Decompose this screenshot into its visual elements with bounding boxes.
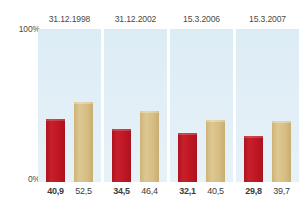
bar-red-4 xyxy=(244,136,263,182)
plot-area-3 xyxy=(170,29,233,182)
bar-pair-2 xyxy=(104,29,167,182)
value-group-1: 40,9 52,5 xyxy=(38,184,101,204)
bar-tan-4 xyxy=(272,121,291,182)
value-red-1: 40,9 xyxy=(46,184,65,198)
bar-red-1 xyxy=(46,119,65,182)
value-tan-1: 52,5 xyxy=(74,184,93,198)
bar-highlight xyxy=(178,133,197,135)
panel-group-1: 31.12.1998 xyxy=(38,10,101,182)
bar-highlight xyxy=(112,129,131,131)
bar-red-3 xyxy=(178,133,197,182)
panel-group-2: 31.12.2002 xyxy=(104,10,167,182)
panel-header-3: 15.3.2006 xyxy=(170,10,233,29)
axis-tick-100: 100% xyxy=(6,24,40,34)
bar-highlight xyxy=(74,102,93,104)
bar-highlight xyxy=(244,136,263,138)
panel-header-4: 15.3.2007 xyxy=(236,10,299,29)
bar-pair-3 xyxy=(170,29,233,182)
value-red-2: 34,5 xyxy=(112,184,131,198)
bar-highlight xyxy=(206,120,225,122)
panel-header-1: 31.12.1998 xyxy=(38,10,101,29)
value-tan-2: 46,4 xyxy=(140,184,159,198)
bar-tan-3 xyxy=(206,120,225,182)
panel-header-2: 31.12.2002 xyxy=(104,10,167,29)
value-tan-3: 40,5 xyxy=(206,184,225,198)
value-red-4: 29,8 xyxy=(244,184,263,198)
bar-highlight xyxy=(272,121,291,123)
plot-area-2 xyxy=(104,29,167,182)
value-group-4: 29,8 39,7 xyxy=(236,184,299,204)
panel-row: 31.12.1998 31.12.2002 xyxy=(38,10,299,182)
bar-tan-2 xyxy=(140,111,159,182)
value-group-3: 32,1 40,5 xyxy=(170,184,233,204)
bar-pair-4 xyxy=(236,29,299,182)
bar-highlight xyxy=(140,111,159,113)
bar-red-2 xyxy=(112,129,131,182)
axis-tick-0: 0% xyxy=(6,174,40,184)
value-tan-4: 39,7 xyxy=(272,184,291,198)
plot-area-1 xyxy=(38,29,101,182)
bar-chart: 100% 0% 31.12.1998 31.12.2002 xyxy=(0,0,308,211)
value-label-row: 40,9 52,5 34,5 46,4 32,1 40,5 29,8 39,7 xyxy=(38,184,299,204)
value-group-2: 34,5 46,4 xyxy=(104,184,167,204)
bar-pair-1 xyxy=(38,29,101,182)
panel-group-4: 15.3.2007 xyxy=(236,10,299,182)
value-red-3: 32,1 xyxy=(178,184,197,198)
bar-highlight xyxy=(46,119,65,121)
panel-group-3: 15.3.2006 xyxy=(170,10,233,182)
plot-area-4 xyxy=(236,29,299,182)
bar-tan-1 xyxy=(74,102,93,182)
